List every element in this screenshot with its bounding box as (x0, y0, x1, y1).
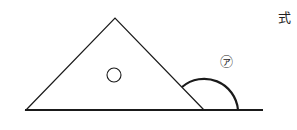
angle-label: ㋐ (220, 54, 233, 69)
formula-label: 式 (278, 10, 291, 25)
triangle (26, 18, 204, 110)
exterior-angle-arc (182, 79, 238, 110)
unknown-angle-circle-marker (107, 68, 121, 82)
geometry-diagram: ㋐ 式 (0, 0, 297, 130)
